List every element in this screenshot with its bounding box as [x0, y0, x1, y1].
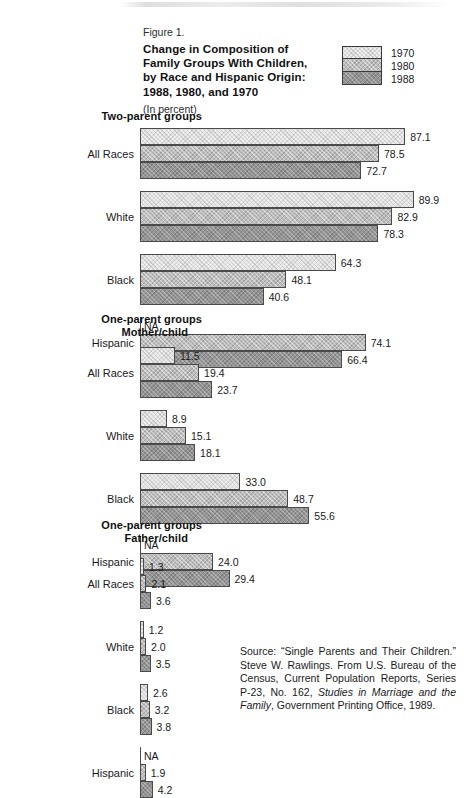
bar-value-label: 3.6: [156, 595, 171, 607]
category-label-all-races: All Races: [0, 578, 134, 590]
bar-value-label: 8.9: [172, 413, 187, 425]
bar-value-label: 1.3: [149, 561, 164, 573]
bar-value-label: 66.4: [347, 354, 367, 366]
bar-1970: [140, 347, 175, 364]
source-note: Source: “Single Parents and Their Childr…: [240, 645, 456, 713]
bar-1980: [140, 208, 392, 225]
category-label-black: Black: [0, 704, 134, 716]
bar-value-label: 87.1: [410, 131, 430, 143]
bar-value-label: 24.0: [218, 556, 238, 568]
category-label-all-races: All Races: [0, 148, 134, 160]
bar-1988: [140, 162, 361, 179]
bar-value-label: 33.0: [245, 476, 265, 488]
category-label-hispanic: Hispanic: [0, 767, 134, 779]
bar-1988: [140, 781, 153, 798]
bar-value-label: 2.1: [151, 578, 166, 590]
bar-1970: [140, 254, 336, 271]
bar-1980: [140, 701, 150, 718]
category-label-all-races: All Races: [0, 367, 134, 379]
bar-value-label: 74.1: [371, 337, 391, 349]
bar-1988: [140, 655, 151, 672]
bar-value-label: 18.1: [200, 447, 220, 459]
section-heading-2-line-1: One-parent groups: [0, 313, 202, 326]
bar-1988: [140, 444, 195, 461]
bar-1970: [140, 128, 405, 145]
section-heading-2-line-2: Mother/child: [0, 326, 188, 339]
bar-value-label: 1.2: [149, 624, 164, 636]
bar-value-label: 23.7: [217, 384, 237, 396]
bar-value-label: 15.1: [191, 430, 211, 442]
bar-1988: [140, 592, 151, 609]
bar-value-label: 78.5: [384, 148, 404, 160]
bar-value-label: 29.4: [235, 573, 255, 585]
bar-1988: [140, 718, 152, 735]
section-heading-3-line-1: One-parent groups: [0, 519, 202, 532]
section-heading-1-line-1: Two-parent groups: [0, 110, 202, 123]
bar-value-label: 19.4: [204, 367, 224, 379]
bar-1980: [140, 490, 288, 507]
bar-1980: [140, 638, 146, 655]
bar-value-label: 3.2: [155, 704, 170, 716]
category-label-white: White: [0, 430, 134, 442]
bar-value-label: 48.1: [291, 274, 311, 286]
bar-value-label: 82.9: [397, 211, 417, 223]
bar-1970: [140, 473, 240, 490]
bar-1980: [140, 145, 379, 162]
bar-1970: [140, 684, 148, 701]
bar-value-label: 3.8: [157, 721, 172, 733]
bar-value-label: 64.3: [341, 257, 361, 269]
bar-value-label: 4.2: [158, 784, 173, 796]
bar-value-label: 40.6: [269, 291, 289, 303]
bar-value-label: 2.6: [153, 687, 168, 699]
bar-1980: [140, 427, 186, 444]
bar-1970: [140, 621, 144, 638]
bar-1980: [140, 271, 286, 288]
category-label-white: White: [0, 211, 134, 223]
category-label-white: White: [0, 641, 134, 653]
bar-value-label: 55.6: [314, 510, 334, 522]
bar-value-label: 3.5: [156, 658, 171, 670]
bar-1980: [140, 364, 199, 381]
bar-1970: [140, 191, 414, 208]
bar-value-na: NA: [144, 750, 159, 762]
source-suffix: , Government Printing Office, 1989.: [271, 699, 435, 711]
category-label-hispanic: Hispanic: [0, 556, 134, 568]
bar-value-label: 2.0: [151, 641, 166, 653]
bar-1970: [140, 558, 144, 575]
bar-1980: [140, 575, 146, 592]
category-label-black: Black: [0, 274, 134, 286]
bar-1988: [140, 288, 264, 305]
category-label-black: Black: [0, 493, 134, 505]
bar-1980: [140, 764, 146, 781]
bar-value-label: 78.3: [383, 228, 403, 240]
bar-1988: [140, 381, 212, 398]
bar-1988: [140, 225, 378, 242]
bar-value-label: 72.7: [366, 165, 386, 177]
bar-value-label: 89.9: [419, 194, 439, 206]
bar-value-label: 11.5: [180, 350, 200, 362]
section-heading-3-line-2: Father/child: [0, 532, 188, 545]
bar-1970: [140, 410, 167, 427]
bar-value-label: 48.7: [293, 493, 313, 505]
bar-value-label: 1.9: [151, 767, 166, 779]
na-tick: [140, 747, 141, 764]
